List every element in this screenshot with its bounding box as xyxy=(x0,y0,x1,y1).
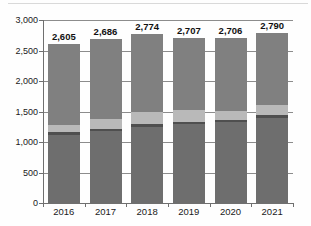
x-axis-category-2017: 2017 xyxy=(83,206,129,217)
bar-segment-segment-top[interactable] xyxy=(173,38,205,110)
y-axis-tick-label: 2,500 xyxy=(0,46,38,56)
y-axis-labels: 05001,0001,5002,0002,5003,000 xyxy=(0,20,40,203)
bar-value-label-2018: 2,774 xyxy=(124,21,170,32)
x-axis-tick xyxy=(168,203,169,207)
y-axis-tick-label: 2,000 xyxy=(0,76,38,86)
bar-value-label-2016: 2,605 xyxy=(41,31,87,42)
bar-2020[interactable] xyxy=(215,20,247,203)
bar-2021[interactable] xyxy=(256,20,288,203)
bar-segment-segment-light[interactable] xyxy=(215,111,247,120)
bar-segment-segment-light[interactable] xyxy=(90,119,122,129)
x-axis-category-2019: 2019 xyxy=(166,206,212,217)
bar-segment-segment-base[interactable] xyxy=(173,124,205,203)
y-axis-tick-label: 0 xyxy=(0,198,38,208)
y-axis-tick-label: 500 xyxy=(0,168,38,178)
x-axis-category-2016: 2016 xyxy=(41,206,87,217)
bar-2016[interactable] xyxy=(48,20,80,203)
bar-segment-segment-base[interactable] xyxy=(90,131,122,203)
y-axis-tick-label: 3,000 xyxy=(0,15,38,25)
bar-segment-segment-base[interactable] xyxy=(131,127,163,203)
bar-2018[interactable] xyxy=(131,20,163,203)
bar-segment-segment-top[interactable] xyxy=(90,39,122,118)
top-divider xyxy=(8,3,308,4)
y-axis-tick-label: 1,500 xyxy=(0,107,38,117)
bar-value-label-2020: 2,706 xyxy=(208,25,254,36)
x-axis-tick xyxy=(85,203,86,207)
x-axis-category-2021: 2021 xyxy=(249,206,295,217)
bar-segment-segment-band[interactable] xyxy=(215,120,247,123)
x-axis-tick xyxy=(126,203,127,207)
bar-segment-segment-light[interactable] xyxy=(173,110,205,122)
bar-2017[interactable] xyxy=(90,20,122,203)
bar-value-label-2017: 2,686 xyxy=(83,26,129,37)
bar-segment-segment-base[interactable] xyxy=(215,122,247,203)
x-axis-tick xyxy=(43,203,44,207)
bar-value-label-2021: 2,790 xyxy=(249,20,295,31)
bar-segment-segment-light[interactable] xyxy=(48,125,80,132)
bar-segment-segment-band[interactable] xyxy=(48,132,80,135)
bar-value-label-2019: 2,707 xyxy=(166,25,212,36)
bar-segment-segment-top[interactable] xyxy=(215,38,247,111)
y-axis-tick-label: 1,000 xyxy=(0,137,38,147)
chart-container: 05001,0001,5002,0002,5003,000 2,60520162… xyxy=(0,0,311,226)
bar-segment-segment-band[interactable] xyxy=(131,124,163,127)
x-axis-category-2018: 2018 xyxy=(124,206,170,217)
bar-series-layer xyxy=(43,20,293,203)
bar-segment-segment-band[interactable] xyxy=(256,115,288,118)
bar-2019[interactable] xyxy=(173,20,205,203)
x-axis-category-2020: 2020 xyxy=(208,206,254,217)
bar-segment-segment-light[interactable] xyxy=(131,112,163,124)
x-axis-tick xyxy=(293,203,294,207)
x-axis-tick xyxy=(251,203,252,207)
bar-segment-segment-band[interactable] xyxy=(173,122,205,125)
bar-segment-segment-band[interactable] xyxy=(90,129,122,132)
bar-segment-segment-base[interactable] xyxy=(48,135,80,203)
bar-segment-segment-top[interactable] xyxy=(131,34,163,112)
bar-segment-segment-top[interactable] xyxy=(256,33,288,105)
bar-segment-segment-base[interactable] xyxy=(256,118,288,203)
bar-segment-segment-top[interactable] xyxy=(48,44,80,125)
bar-segment-segment-light[interactable] xyxy=(256,105,288,115)
x-axis-tick xyxy=(210,203,211,207)
